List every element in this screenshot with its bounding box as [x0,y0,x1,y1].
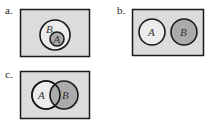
panel-a-circle-B-label: B [46,23,53,35]
panel-b: A B [133,10,204,56]
panel-a-circle-A-label: A [53,33,61,45]
panel-b-circle-A-label: A [147,26,155,38]
panel-c: A B [21,72,90,119]
panel-b-circle-B-label: B [180,26,187,38]
panel-c-circle-A-label: A [37,89,45,101]
panel-a: B A [21,10,90,57]
venn-diagrams: B A A B A B [0,0,211,129]
panel-c-circle-B-label: B [62,89,69,101]
